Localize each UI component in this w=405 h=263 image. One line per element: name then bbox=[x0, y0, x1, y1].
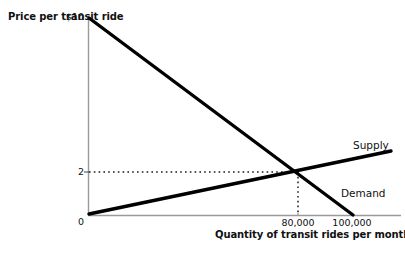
y-tick-label-10: $10 bbox=[62, 11, 84, 22]
supply-curve-label: Supply bbox=[353, 139, 389, 151]
demand-curve-label: Demand bbox=[341, 187, 386, 199]
supply-curve bbox=[89, 151, 391, 214]
x-tick-label-80000: 80,000 bbox=[268, 217, 328, 228]
y-tick-label-2: 2 bbox=[62, 166, 84, 177]
y-tick-label-0: 0 bbox=[62, 216, 84, 227]
supply-demand-chart: Price per transit ride Quantity of trans… bbox=[0, 0, 405, 263]
x-axis-title: Quantity of transit rides per month bbox=[215, 229, 401, 241]
x-tick-label-100000: 100,000 bbox=[320, 217, 384, 228]
